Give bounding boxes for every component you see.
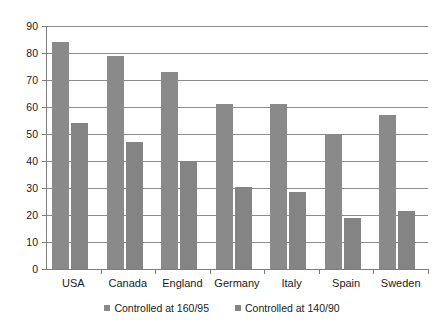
y-axis-tick-label: 50: [0, 129, 38, 140]
x-axis-tick-label: Germany: [210, 277, 265, 290]
x-axis-tick-mark: [155, 269, 156, 274]
y-axis-tick-mark: [42, 188, 46, 189]
y-axis-tick-label: 10: [0, 237, 38, 248]
x-axis-tick-label: Canada: [101, 277, 156, 290]
bar: [270, 104, 287, 269]
x-axis-tick-mark: [101, 269, 102, 274]
y-axis-tick-mark: [42, 134, 46, 135]
x-axis-tick-mark: [210, 269, 211, 274]
bar-chart: 0102030405060708090 USACanadaEnglandGerm…: [0, 0, 444, 324]
y-axis-tick-mark: [42, 215, 46, 216]
plot-area: [46, 26, 428, 269]
bar: [398, 211, 415, 269]
y-axis-line: [46, 26, 47, 270]
x-axis-tick-label: England: [155, 277, 210, 290]
bar: [216, 104, 233, 269]
bar-group: [101, 26, 156, 269]
bar: [180, 161, 197, 269]
x-axis-tick-mark: [319, 269, 320, 274]
bar: [325, 134, 342, 269]
x-axis-tick-label: Spain: [319, 277, 374, 290]
legend-item: Controlled at 140/90: [235, 302, 340, 314]
y-axis-tick-mark: [42, 26, 46, 27]
y-axis-labels: 0102030405060708090: [0, 0, 40, 324]
y-axis-tick-mark: [42, 107, 46, 108]
x-axis-tick-mark: [373, 269, 374, 274]
bar-group: [264, 26, 319, 269]
x-axis-line: [46, 269, 428, 270]
x-axis-tick-label: USA: [46, 277, 101, 290]
bar: [161, 72, 178, 269]
y-axis-tick-label: 30: [0, 183, 38, 194]
bar: [235, 187, 252, 269]
chart-legend: Controlled at 160/95Controlled at 140/90: [0, 302, 444, 314]
y-axis-tick-label: 70: [0, 75, 38, 86]
legend-label: Controlled at 140/90: [245, 302, 340, 314]
bar: [379, 115, 396, 269]
x-axis-tick-label: Italy: [264, 277, 319, 290]
x-axis-tick-label: Sweden: [373, 277, 428, 290]
y-axis-tick-label: 60: [0, 102, 38, 113]
y-axis-tick-mark: [42, 161, 46, 162]
bar: [126, 142, 143, 269]
legend-item: Controlled at 160/95: [104, 302, 209, 314]
bar-group: [155, 26, 210, 269]
bar-group: [46, 26, 101, 269]
y-axis-tick-label: 80: [0, 48, 38, 59]
x-axis-tick-mark: [264, 269, 265, 274]
legend-label: Controlled at 160/95: [114, 302, 209, 314]
bar-group: [319, 26, 374, 269]
y-axis-tick-label: 90: [0, 21, 38, 32]
y-axis-tick-label: 20: [0, 210, 38, 221]
bar: [289, 192, 306, 269]
legend-swatch-icon: [235, 305, 241, 311]
bar: [107, 56, 124, 269]
bar-group: [373, 26, 428, 269]
y-axis-tick-label: 0: [0, 264, 38, 275]
legend-swatch-icon: [104, 305, 110, 311]
bar: [52, 42, 69, 269]
y-axis-tick-mark: [42, 80, 46, 81]
y-axis-tick-mark: [42, 269, 46, 270]
x-axis-tick-mark: [428, 269, 429, 274]
bar-group: [210, 26, 265, 269]
bar: [71, 123, 88, 269]
bar: [344, 218, 361, 269]
y-axis-tick-label: 40: [0, 156, 38, 167]
y-axis-tick-mark: [42, 242, 46, 243]
y-axis-tick-mark: [42, 53, 46, 54]
